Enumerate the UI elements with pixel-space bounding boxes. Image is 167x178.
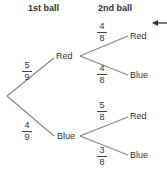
fraction-blue-blue: 38	[97, 146, 107, 167]
leaf-red-blue: Blue	[130, 70, 148, 80]
fraction-red-red: 48	[97, 22, 107, 43]
denominator: 9	[24, 132, 29, 142]
denominator: 9	[24, 72, 29, 82]
numerator: 5	[24, 60, 29, 70]
fraction-red-blue: 48	[97, 64, 107, 85]
numerator: 5	[99, 100, 104, 110]
denominator: 8	[99, 157, 104, 167]
denominator: 8	[99, 75, 104, 85]
leaf-blue-red: Red	[130, 111, 147, 121]
numerator: 4	[99, 21, 104, 31]
denominator: 8	[99, 112, 104, 122]
leaf-red-red: Red	[130, 31, 147, 41]
left-arrow-icon	[152, 20, 167, 26]
numerator: 4	[99, 63, 104, 73]
denominator: 8	[99, 33, 104, 43]
node-first-blue: Blue	[57, 131, 75, 141]
fraction-first-red: 59	[22, 61, 32, 82]
fraction-first-blue: 49	[22, 121, 32, 142]
fraction-blue-red: 58	[97, 101, 107, 122]
leaf-blue-blue: Blue	[130, 150, 148, 160]
numerator: 3	[99, 145, 104, 155]
node-first-red: Red	[56, 51, 73, 61]
numerator: 4	[24, 120, 29, 130]
